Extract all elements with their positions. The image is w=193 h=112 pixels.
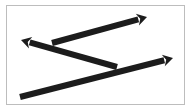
- arrow-shaft: [30, 42, 117, 67]
- arrow-shaft: [20, 60, 164, 97]
- arrows-canvas: [0, 0, 193, 112]
- upper-right-arrow-arrow-icon: [52, 14, 147, 43]
- arrow-layer: [20, 14, 173, 97]
- arrow-shaft: [52, 19, 138, 43]
